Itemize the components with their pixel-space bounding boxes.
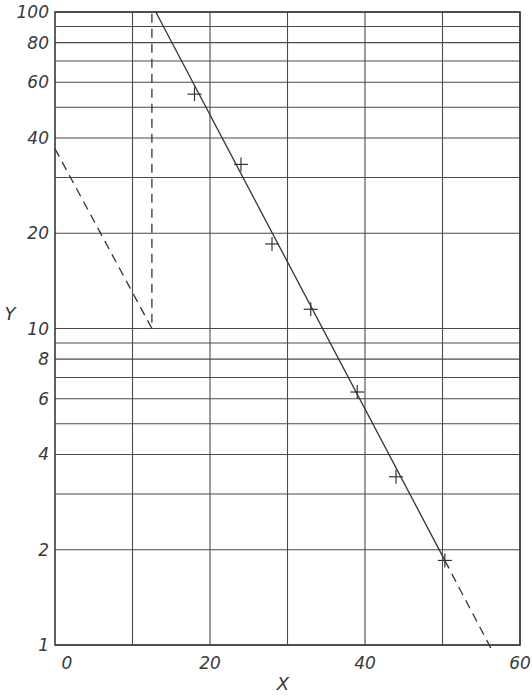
- y-tick-label: 80: [27, 33, 49, 53]
- plus-marker-icon: [265, 237, 279, 251]
- y-tick-label: 40: [27, 128, 49, 148]
- plus-marker-icon: [389, 470, 403, 484]
- y-tick-label: 2: [38, 540, 49, 560]
- y-tick-label: 1: [38, 635, 49, 655]
- x-tick-label: 60: [509, 653, 531, 673]
- x-tick-label: 0: [62, 653, 73, 673]
- plus-marker-icon: [188, 87, 202, 101]
- x-axis-label: X: [276, 673, 290, 694]
- y-axis-label: Y: [5, 303, 18, 324]
- plus-marker-icon: [234, 157, 248, 171]
- y-tick-label: 4: [38, 444, 49, 464]
- dashed-line: [445, 560, 493, 652]
- x-tick-label: 20: [199, 653, 221, 673]
- data-markers: [188, 87, 452, 567]
- y-tick-label: 20: [27, 223, 49, 243]
- plus-marker-icon: [350, 385, 364, 399]
- y-tick-label: 100: [17, 2, 49, 22]
- y-tick-label: 8: [38, 349, 49, 369]
- fit-lines: [55, 12, 493, 652]
- dashed-line: [55, 12, 152, 329]
- y-tick-labels: 124681020406080100: [17, 2, 50, 655]
- y-tick-label: 10: [27, 319, 49, 339]
- y-tick-label: 60: [27, 72, 49, 92]
- y-tick-label: 6: [38, 389, 49, 409]
- log-linear-chart: 124681020406080100 0204060 X Y: [0, 0, 532, 697]
- plus-marker-icon: [438, 553, 452, 567]
- x-tick-labels: 0204060: [62, 653, 531, 673]
- x-tick-label: 40: [354, 653, 376, 673]
- grid: [55, 12, 520, 645]
